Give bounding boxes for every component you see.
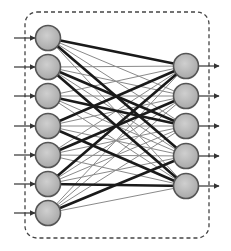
connection (48, 96, 186, 213)
input-node (36, 201, 61, 226)
input-node (36, 172, 61, 197)
output-node (174, 84, 199, 109)
output-node (174, 114, 199, 139)
output-node (174, 54, 199, 79)
output-layer (174, 54, 199, 199)
output-node (174, 144, 199, 169)
strong-connection (48, 38, 186, 66)
input-node (36, 26, 61, 51)
input-node (36, 55, 61, 80)
output-node (174, 174, 199, 199)
input-node (36, 84, 61, 109)
input-node (36, 114, 61, 139)
input-node (36, 143, 61, 168)
connection (48, 66, 186, 67)
input-layer (36, 26, 61, 226)
neural-network-diagram (0, 0, 231, 251)
